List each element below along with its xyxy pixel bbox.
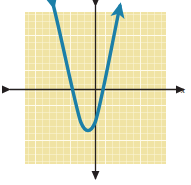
x-axis-label: x [180,85,185,95]
coordinate-graph-svg: x [0,0,191,185]
graph-figure: x [0,0,191,185]
